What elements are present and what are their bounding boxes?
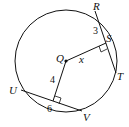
label-Q: Q xyxy=(56,52,64,64)
label-T: T xyxy=(117,70,124,82)
label-S: S xyxy=(106,32,112,44)
label-V: V xyxy=(83,111,91,123)
center-point-Q xyxy=(64,59,67,62)
segment-QS xyxy=(66,43,106,61)
right-angle-mark-S xyxy=(99,46,107,52)
label-U: U xyxy=(9,84,18,96)
label-UV-half: 6 xyxy=(47,103,52,114)
circle-diagram: R S T Q U V 3 x 4 6 xyxy=(0,0,129,127)
label-R: R xyxy=(92,0,100,12)
label-RS-length: 3 xyxy=(93,25,98,36)
label-QS-x: x xyxy=(78,53,84,65)
label-Q-UV-length: 4 xyxy=(50,74,55,85)
